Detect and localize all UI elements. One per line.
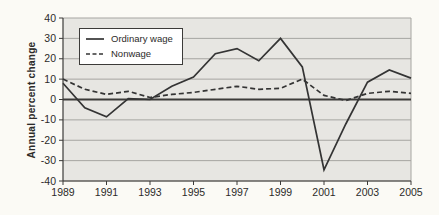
x-tick-label: 1999 [269, 186, 293, 198]
legend-label-ordinary-wage: Ordinary wage [111, 33, 173, 45]
y-tick-label: 40 [44, 12, 56, 24]
y-tick-label: 0 [50, 93, 56, 105]
x-tick-label: 1991 [95, 186, 119, 198]
legend: Ordinary wage Nonwage [79, 28, 183, 65]
legend-label-nonwage: Nonwage [111, 48, 151, 60]
y-axis-title: Annual percent change [26, 42, 37, 159]
x-tick-label: 2005 [399, 186, 423, 198]
x-tick-label: 1993 [138, 186, 162, 198]
y-tick-label: 20 [44, 52, 56, 64]
y-tick-label: 30 [44, 32, 56, 44]
x-tick-label: 2003 [356, 186, 380, 198]
y-tick-label: -30 [41, 154, 56, 166]
wage-change-line-chart: 403020100-10-20-30-401989199119931995199… [0, 0, 439, 215]
y-tick-label: -20 [41, 134, 56, 146]
legend-item-ordinary-wage: Ordinary wage [86, 33, 173, 45]
x-tick-label: 1989 [51, 186, 75, 198]
x-tick-label: 1995 [182, 186, 206, 198]
y-tick-label: -40 [41, 175, 56, 187]
x-tick-label: 1997 [225, 186, 249, 198]
y-tick-label: -10 [41, 113, 56, 125]
y-tick-label: 10 [44, 73, 56, 85]
chart-plot-area: 403020100-10-20-30-401989199119931995199… [0, 0, 439, 215]
solid-line-swatch-icon [86, 36, 104, 42]
x-tick-label: 2001 [312, 186, 336, 198]
dashed-line-swatch-icon [86, 51, 104, 57]
legend-item-nonwage: Nonwage [86, 48, 173, 60]
